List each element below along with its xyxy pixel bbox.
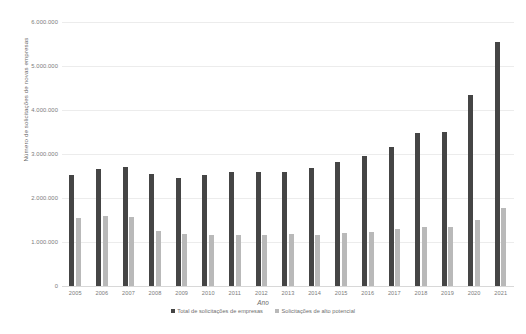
- x-axis-title: Ano: [0, 299, 526, 306]
- bar-high-potential: [129, 217, 134, 286]
- x-tick-label: 2016: [356, 290, 380, 296]
- bar-total: [69, 175, 74, 286]
- bar-chart: Número de solicitações de novas empresas…: [0, 0, 526, 334]
- bar-high-potential: [262, 235, 267, 286]
- bar-group: [335, 22, 347, 286]
- bar-total: [335, 162, 340, 286]
- bar-group: [389, 22, 401, 286]
- bar-group: [176, 22, 188, 286]
- bar-high-potential: [448, 227, 453, 286]
- bar-group: [282, 22, 294, 286]
- bar-high-potential: [422, 227, 427, 286]
- gridline: [62, 286, 514, 287]
- x-tick-label: 2021: [489, 290, 513, 296]
- bar-total: [468, 95, 473, 286]
- bar-high-potential: [289, 234, 294, 286]
- bar-total: [415, 133, 420, 286]
- x-tick-label: 2015: [329, 290, 353, 296]
- x-tick-label: 2008: [143, 290, 167, 296]
- bar-high-potential: [315, 235, 320, 286]
- bar-total: [123, 167, 128, 286]
- y-tick-label: 2.000.000: [0, 195, 58, 201]
- bar-total: [229, 172, 234, 286]
- bar-group: [442, 22, 454, 286]
- bar-group: [96, 22, 108, 286]
- y-tick-label: 3.000.000: [0, 151, 58, 157]
- y-tick-label: 1.000.000: [0, 239, 58, 245]
- x-tick-label: 2010: [196, 290, 220, 296]
- y-tick-label: 5.000.000: [0, 63, 58, 69]
- bar-total: [202, 175, 207, 286]
- legend-swatch-icon: [171, 309, 175, 313]
- x-tick-label: 2017: [382, 290, 406, 296]
- bar-high-potential: [182, 234, 187, 286]
- bar-high-potential: [236, 235, 241, 286]
- bar-group: [202, 22, 214, 286]
- bar-total: [389, 147, 394, 286]
- bar-group: [415, 22, 427, 286]
- bar-group: [362, 22, 374, 286]
- bar-total: [495, 42, 500, 286]
- x-tick-label: 2009: [170, 290, 194, 296]
- bar-group: [256, 22, 268, 286]
- x-tick-label: 2020: [462, 290, 486, 296]
- bar-total: [256, 172, 261, 286]
- legend-item[interactable]: Solicitações de alto potencial: [275, 308, 355, 314]
- x-tick-label: 2012: [249, 290, 273, 296]
- bar-total: [176, 178, 181, 286]
- x-tick-label: 2007: [116, 290, 140, 296]
- bar-group: [309, 22, 321, 286]
- bar-group: [69, 22, 81, 286]
- y-tick-label: 0: [0, 283, 58, 289]
- bars-layer: [62, 22, 514, 286]
- bar-total: [96, 169, 101, 286]
- bar-high-potential: [369, 232, 374, 286]
- bar-total: [442, 132, 447, 286]
- bar-group: [468, 22, 480, 286]
- bar-total: [362, 156, 367, 286]
- bar-high-potential: [501, 208, 506, 286]
- bar-high-potential: [156, 231, 161, 286]
- bar-high-potential: [342, 233, 347, 286]
- bar-group: [123, 22, 135, 286]
- y-tick-label: 4.000.000: [0, 107, 58, 113]
- bar-group: [229, 22, 241, 286]
- legend-item[interactable]: Total de solicitações de empresas: [171, 308, 263, 314]
- chart-legend: Total de solicitações de empresasSolicit…: [0, 308, 526, 314]
- bar-high-potential: [103, 216, 108, 286]
- x-tick-label: 2006: [90, 290, 114, 296]
- legend-label: Solicitações de alto potencial: [281, 308, 355, 314]
- plot-area: [62, 22, 514, 286]
- x-tick-label: 2014: [303, 290, 327, 296]
- x-tick-label: 2011: [223, 290, 247, 296]
- bar-group: [149, 22, 161, 286]
- bar-total: [282, 172, 287, 286]
- bar-total: [149, 174, 154, 286]
- legend-swatch-icon: [275, 309, 279, 313]
- bar-high-potential: [475, 220, 480, 286]
- bar-high-potential: [395, 229, 400, 286]
- x-tick-label: 2019: [436, 290, 460, 296]
- bar-high-potential: [209, 235, 214, 286]
- x-tick-label: 2018: [409, 290, 433, 296]
- legend-label: Total de solicitações de empresas: [177, 308, 263, 314]
- bar-high-potential: [76, 218, 81, 286]
- x-tick-label: 2013: [276, 290, 300, 296]
- x-tick-label: 2005: [63, 290, 87, 296]
- bar-group: [495, 22, 507, 286]
- bar-total: [309, 168, 314, 286]
- y-tick-label: 6.000.000: [0, 19, 58, 25]
